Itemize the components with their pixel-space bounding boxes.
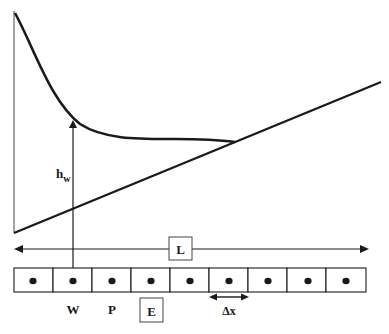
spacing-label: Δx [222,304,236,318]
node-dot [147,278,154,284]
node-dot [108,278,115,284]
length-arrow-right-head [360,245,369,253]
spacing-arrow-right-head [241,294,249,301]
node-label-w: W [67,302,80,317]
node-dot [264,278,271,284]
node-label-p: P [108,302,116,317]
length-label: L [176,242,185,257]
node-dot [29,278,36,284]
node-dot [304,278,311,284]
length-arrow-left-head [14,245,23,253]
water-surface-curve [15,13,235,142]
node-dot [186,278,193,284]
node-label-e: E [147,304,156,319]
diagram-canvas: hw L W P E Δx [0,0,389,334]
node-dot [69,278,76,284]
spacing-arrow-left-head [209,294,217,301]
node-dot [225,278,232,284]
depth-label: hw [56,166,71,184]
bed-line [14,82,381,233]
node-dot [342,278,349,284]
